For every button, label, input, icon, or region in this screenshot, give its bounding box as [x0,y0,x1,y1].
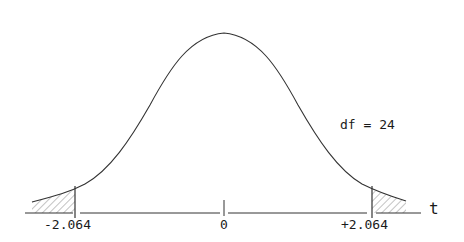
left-tail-shaded-region [32,190,75,213]
degrees-of-freedom-label: df = 24 [340,117,395,132]
right-tail-shaded-region [372,190,406,213]
tick-label-zero: 0 [220,217,228,232]
tick-label-right: +2.064 [341,217,388,232]
t-axis-label: t [429,199,439,218]
tick-label-left: -2.064 [44,217,91,232]
